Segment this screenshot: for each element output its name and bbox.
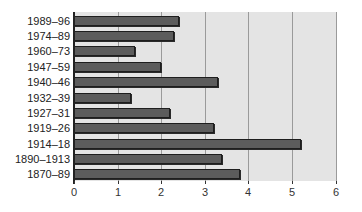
bar: [74, 139, 301, 149]
bar: [74, 154, 222, 164]
x-tick-mark: [248, 181, 249, 184]
x-tick-label: 3: [195, 186, 215, 198]
x-tick-label: 5: [282, 186, 302, 198]
category-label: 1947–59: [27, 60, 70, 74]
bar: [74, 169, 240, 179]
bar: [74, 31, 174, 41]
category-label: 1940–46: [27, 75, 70, 89]
category-label: 1890–1913: [15, 152, 70, 166]
category-label: 1960–73: [27, 44, 70, 58]
x-tick-label: 6: [326, 186, 346, 198]
x-tick-mark: [336, 181, 337, 184]
category-label: 1989–96: [27, 14, 70, 28]
category-label: 1974–89: [27, 29, 70, 43]
x-tick-label: 4: [238, 186, 258, 198]
category-label: 1914–18: [27, 137, 70, 151]
x-tick-mark: [74, 181, 75, 184]
x-tick-mark: [292, 181, 293, 184]
bar: [74, 123, 214, 133]
y-axis-line: [73, 12, 75, 184]
x-tick-label: 2: [151, 186, 171, 198]
bar: [74, 16, 179, 26]
bar: [74, 46, 135, 56]
bar: [74, 62, 161, 72]
category-label: 1932–39: [27, 91, 70, 105]
gridline: [292, 12, 293, 181]
x-tick-label: 1: [108, 186, 128, 198]
plot-area: [74, 12, 336, 181]
x-tick-mark: [118, 181, 119, 184]
x-tick-label: 0: [64, 186, 84, 198]
bar: [74, 93, 131, 103]
gridline: [248, 12, 249, 181]
bar: [74, 77, 218, 87]
category-label: 1870–89: [27, 167, 70, 181]
category-label: 1927–31: [27, 106, 70, 120]
x-tick-mark: [161, 181, 162, 184]
gridline: [336, 12, 337, 181]
bar: [74, 108, 170, 118]
x-tick-mark: [205, 181, 206, 184]
category-label: 1919–26: [27, 121, 70, 135]
